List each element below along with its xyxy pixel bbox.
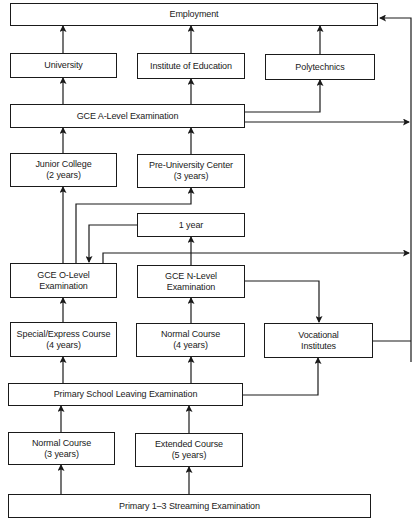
vocational-label: Vocational	[298, 330, 339, 341]
junior-college-box: Junior College (2 years)	[10, 153, 117, 187]
polytechnics-label: Polytechnics	[295, 62, 344, 73]
n-level-label: GCE N-Level	[165, 271, 217, 282]
institute-box: Institute of Education	[137, 53, 245, 79]
vocational-box: Vocational Institutes	[264, 323, 373, 358]
a-level-label: GCE A-Level Examination	[77, 111, 179, 122]
streaming-label: Primary 1–3 Streaming Examination	[119, 501, 260, 512]
extended-primary-label: Extended Course	[155, 439, 223, 450]
o-level-sub: Examination	[39, 281, 87, 292]
employment-box: Employment	[10, 3, 378, 26]
special-express-duration: (4 years)	[46, 340, 81, 351]
normal-primary-label: Normal Course	[32, 438, 91, 449]
streaming-box: Primary 1–3 Streaming Examination	[8, 494, 371, 518]
normal-primary-duration: (3 years)	[44, 449, 79, 460]
n-level-sub: Examination	[167, 282, 215, 293]
special-express-label: Special/Express Course	[17, 329, 111, 340]
normal-secondary-duration: (4 years)	[173, 340, 208, 351]
university-box: University	[10, 53, 117, 78]
university-label: University	[44, 60, 83, 71]
o-level-label: GCE O-Level	[37, 270, 89, 281]
junior-college-duration: (2 years)	[46, 170, 81, 181]
psle-label: Primary School Leaving Examination	[54, 389, 198, 400]
extended-primary-box: Extended Course (5 years)	[135, 433, 243, 467]
normal-primary-box: Normal Course (3 years)	[8, 432, 115, 465]
extended-primary-duration: (5 years)	[172, 450, 207, 461]
o-level-box: GCE O-Level Examination	[10, 263, 117, 298]
pre-university-box: Pre-University Center (3 years)	[137, 154, 245, 188]
n-level-box: GCE N-Level Examination	[137, 265, 245, 298]
normal-secondary-label: Normal Course	[161, 329, 220, 340]
a-level-box: GCE A-Level Examination	[10, 104, 245, 128]
psle-box: Primary School Leaving Examination	[8, 383, 243, 406]
employment-label: Employment	[169, 9, 218, 20]
institute-label: Institute of Education	[150, 61, 232, 72]
pre-university-label: Pre-University Center	[149, 160, 233, 171]
polytechnics-box: Polytechnics	[265, 54, 375, 80]
one-year-box: 1 year	[137, 213, 245, 237]
vocational-sub: Institutes	[301, 341, 336, 352]
special-express-box: Special/Express Course (4 years)	[10, 322, 117, 357]
pre-university-duration: (3 years)	[174, 171, 209, 182]
one-year-label: 1 year	[179, 220, 203, 231]
normal-secondary-box: Normal Course (4 years)	[136, 323, 245, 357]
junior-college-label: Junior College	[35, 159, 91, 170]
